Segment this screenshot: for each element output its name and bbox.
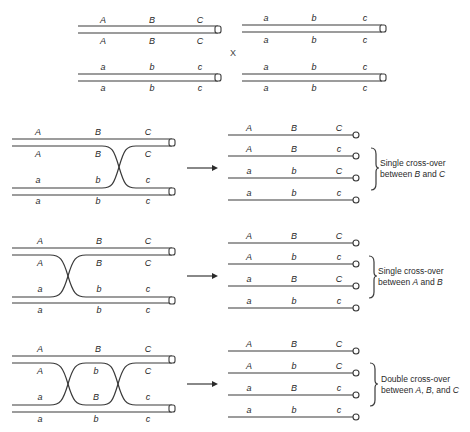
- brace-icon: [369, 256, 377, 298]
- gene-label: a: [246, 274, 251, 284]
- gene-label: b: [95, 175, 100, 185]
- gene-label: B: [95, 149, 101, 159]
- gene-label: a: [263, 13, 268, 23]
- gene-label: A: [36, 366, 43, 376]
- gene-label: B: [291, 144, 297, 154]
- gene-label: a: [263, 35, 268, 45]
- gene-label: C: [197, 36, 204, 46]
- gene-label: b: [311, 62, 316, 72]
- gene-label: C: [336, 166, 343, 176]
- gene-label: c: [146, 414, 151, 424]
- centromere-icon: [169, 139, 175, 146]
- gene-label: c: [198, 62, 203, 72]
- gene-label: c: [337, 383, 342, 393]
- gene-label: a: [35, 175, 40, 185]
- gene-label: C: [336, 123, 343, 133]
- gene-label: A: [245, 123, 252, 133]
- gene-label: b: [311, 13, 316, 23]
- chromosome-pair-right-upper: a b c a b c: [242, 13, 386, 45]
- gene-label: C: [197, 15, 204, 25]
- crossover-note: Single cross-over: [378, 266, 444, 276]
- gene-label: B: [149, 15, 155, 25]
- gene-label: b: [93, 366, 98, 376]
- gene-label: B: [95, 344, 101, 354]
- gene-label: c: [146, 392, 151, 402]
- gene-label: A: [36, 258, 43, 268]
- crossover-note-line2: between A and B: [378, 277, 443, 287]
- gene-label: c: [363, 62, 368, 72]
- centromere-icon: [169, 356, 175, 363]
- centromere-icon: [169, 405, 175, 412]
- arrow-icon: [187, 273, 218, 279]
- gene-label: C: [145, 366, 152, 376]
- centromere-icon: [215, 26, 221, 33]
- centromere-icon: [380, 25, 386, 32]
- gene-label: B: [291, 274, 297, 284]
- gene-label: A: [99, 15, 106, 25]
- gene-label: b: [311, 83, 316, 93]
- crossover-note: Single cross-over: [380, 158, 446, 168]
- arrow-icon: [187, 381, 218, 387]
- gene-label: a: [246, 405, 251, 415]
- tetrad: A B C A b C a B c a b c: [12, 344, 175, 424]
- gene-label: c: [337, 296, 342, 306]
- gene-label: b: [291, 405, 296, 415]
- gene-label: a: [100, 83, 105, 93]
- centromere-icon: [169, 248, 175, 255]
- gene-label: a: [263, 62, 268, 72]
- parental-cross: A B C A B C a b c a b c X a b c: [78, 13, 386, 93]
- gene-label: C: [145, 258, 152, 268]
- gene-label: b: [291, 252, 296, 262]
- crossover-diagram: A B C A B C a b c a b c X a b c: [0, 0, 470, 432]
- centromere-icon: [169, 188, 175, 195]
- gene-label: A: [34, 127, 41, 137]
- gene-label: C: [336, 339, 343, 349]
- gene-label: a: [246, 383, 251, 393]
- gene-label: B: [291, 231, 297, 241]
- gene-label: c: [337, 405, 342, 415]
- chromosome-pair-left-lower: a b c a b c: [78, 62, 221, 93]
- crossover-note-line2: between B and C: [380, 169, 446, 179]
- chromosome-pair-right-lower: a b c a b c: [242, 62, 386, 93]
- gene-label: b: [96, 284, 101, 294]
- chromosome-pair-left-upper: A B C A B C: [78, 15, 221, 46]
- gene-label: b: [95, 196, 100, 206]
- gene-label: b: [149, 62, 154, 72]
- gene-label: A: [245, 144, 252, 154]
- products: A B C A B c a b C a b c: [228, 123, 359, 203]
- gene-label: a: [100, 62, 105, 72]
- centromere-icon: [215, 74, 221, 81]
- section-crossover-b-c: A B C A B C a b c a b c A B C A B c: [12, 123, 446, 206]
- section-double-crossover: A B C A b C a B c a b c A B C A b C: [12, 339, 460, 424]
- gene-label: A: [99, 36, 106, 46]
- gene-label: a: [246, 296, 251, 306]
- gene-label: a: [37, 414, 42, 424]
- crossover-note-line2: between A, B, and C: [381, 385, 460, 395]
- gene-label: C: [145, 127, 152, 137]
- gene-label: B: [291, 383, 297, 393]
- gene-label: a: [35, 196, 40, 206]
- gene-label: b: [149, 83, 154, 93]
- gene-label: c: [337, 188, 342, 198]
- gene-label: c: [363, 35, 368, 45]
- gene-label: c: [337, 252, 342, 262]
- gene-label: C: [336, 274, 343, 284]
- gene-label: a: [263, 83, 268, 93]
- gene-label: C: [145, 344, 152, 354]
- gene-label: b: [291, 188, 296, 198]
- gene-label: A: [245, 252, 252, 262]
- gene-label: b: [93, 414, 98, 424]
- gene-label: A: [245, 231, 252, 241]
- gene-label: B: [291, 123, 297, 133]
- gene-label: B: [93, 392, 99, 402]
- gene-label: c: [198, 83, 203, 93]
- gene-label: B: [96, 258, 102, 268]
- section-crossover-a-b: A B C A B C a b c a b c A B C A b c: [12, 231, 444, 315]
- gene-label: c: [146, 305, 151, 315]
- cross-symbol: X: [230, 48, 236, 58]
- gene-label: c: [146, 196, 151, 206]
- gene-label: B: [96, 236, 102, 246]
- gene-label: C: [336, 231, 343, 241]
- products: A B C A b c a B C a b c: [228, 231, 359, 311]
- tetrad: A B C A B C a b c a b c: [12, 127, 175, 206]
